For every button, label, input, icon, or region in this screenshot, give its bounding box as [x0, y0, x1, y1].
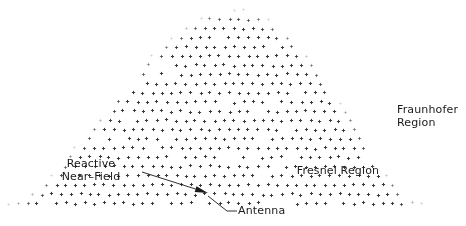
antenna-field-regions-figure: Reactive Near–Field Fresnel Region Fraun… [0, 0, 466, 226]
label-reactive-near-field: Reactive Near–Field [38, 157, 144, 183]
label-antenna: Antenna [238, 204, 298, 217]
label-fraunhofer-region: Fraunhofer Region [397, 103, 465, 129]
label-fresnel-region: Fresnel Region [292, 164, 384, 177]
